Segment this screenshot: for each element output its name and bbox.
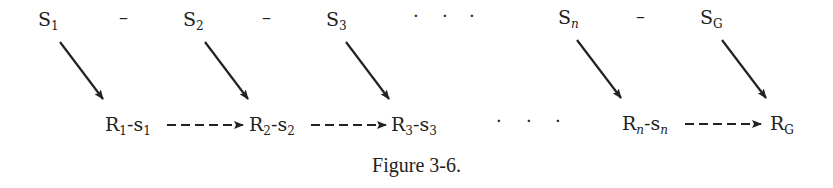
response-r3-s3: R3-s3 bbox=[391, 115, 437, 137]
separator-2: – bbox=[262, 9, 271, 27]
response-rg: RG bbox=[770, 114, 794, 136]
response-rn-sn: Rn-sn bbox=[622, 114, 668, 136]
arrow-sn-rn bbox=[577, 40, 621, 98]
arrow-sg-rg bbox=[722, 40, 766, 98]
stimulus-sg: SG bbox=[700, 8, 723, 30]
arrow-s1-r1 bbox=[60, 42, 103, 99]
stimulus-sn: Sn bbox=[558, 8, 579, 30]
arrow-s3-r3 bbox=[346, 42, 389, 99]
stimulus-s2: S2 bbox=[183, 10, 204, 32]
figure-caption: Figure 3-6. bbox=[0, 154, 833, 177]
stimulus-s1: S1 bbox=[38, 10, 59, 32]
stimulus-s3: S3 bbox=[326, 10, 347, 32]
separator-1: – bbox=[119, 9, 128, 27]
response-r1-s1: R1-s1 bbox=[105, 115, 151, 137]
separator-3: – bbox=[636, 8, 645, 26]
response-r2-s2: R2-s2 bbox=[249, 115, 295, 137]
arrow-s2-r2 bbox=[205, 42, 248, 99]
